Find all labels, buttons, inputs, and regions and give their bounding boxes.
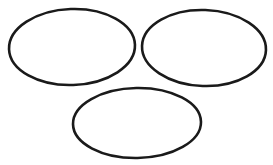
ellipse-figure-svg	[0, 0, 273, 165]
figure-canvas	[0, 0, 273, 165]
